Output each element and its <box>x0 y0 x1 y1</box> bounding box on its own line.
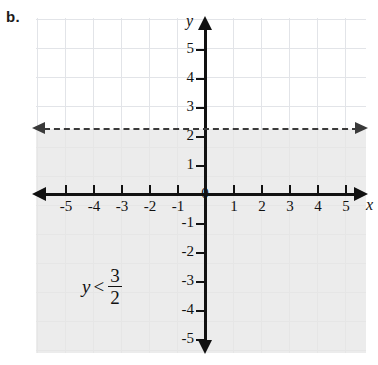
y-tick-label: 5 <box>168 40 194 57</box>
x-axis-label: x <box>366 196 373 214</box>
x-tick-mark <box>65 185 67 194</box>
x-tick-mark <box>121 185 123 194</box>
y-tick-mark <box>196 281 205 283</box>
coordinate-plane: -5 -4 -3 -2 -1 0 1 2 3 4 5 5 4 3 2 1 -1 … <box>36 18 366 353</box>
x-tick-mark <box>233 185 235 194</box>
x-tick-label: -5 <box>53 198 79 215</box>
y-tick-mark <box>196 136 205 138</box>
x-tick-label: 4 <box>305 198 331 215</box>
y-tick-label: -3 <box>168 272 194 289</box>
solution-region-shading <box>36 129 366 353</box>
fraction-numerator: 3 <box>108 266 122 285</box>
x-tick-mark <box>261 185 263 194</box>
figure-canvas: b. -5 -4 -3 -2 -1 0 1 2 3 4 5 <box>0 0 378 365</box>
shaded-region-grid-lines <box>36 129 366 353</box>
y-tick-mark <box>196 165 205 167</box>
x-tick-mark <box>177 185 179 194</box>
y-tick-mark <box>196 107 205 109</box>
fraction-denominator: 2 <box>108 288 122 307</box>
y-tick-label: -4 <box>168 301 194 318</box>
inequality-fraction: 3 2 <box>108 266 122 308</box>
y-tick-mark <box>196 252 205 254</box>
y-tick-label: 3 <box>168 98 194 115</box>
y-axis-label: y <box>186 12 193 30</box>
x-tick-mark <box>317 185 319 194</box>
x-tick-mark <box>149 185 151 194</box>
y-tick-label: 4 <box>168 69 194 86</box>
x-tick-label: -1 <box>165 198 191 215</box>
x-axis-left-arrow-icon <box>32 187 46 201</box>
boundary-right-arrow-icon <box>355 122 368 134</box>
inequality-variable: y <box>82 276 90 298</box>
y-tick-label: -2 <box>168 243 194 260</box>
y-tick-mark <box>196 78 205 80</box>
x-tick-label: 2 <box>249 198 275 215</box>
y-tick-mark <box>196 339 205 341</box>
y-tick-mark <box>196 310 205 312</box>
x-tick-mark <box>289 185 291 194</box>
x-tick-mark <box>345 185 347 194</box>
y-axis-up-arrow-icon <box>198 16 212 30</box>
y-tick-mark <box>196 49 205 51</box>
part-label: b. <box>6 8 20 25</box>
x-tick-label: 1 <box>221 198 247 215</box>
x-tick-label: -3 <box>109 198 135 215</box>
origin-label: 0 <box>192 185 218 202</box>
inequality-annotation: y < 3 2 <box>82 266 122 308</box>
y-tick-label: -5 <box>168 330 194 347</box>
y-axis-down-arrow-icon <box>198 340 212 354</box>
boundary-line-dashed <box>44 128 358 130</box>
y-tick-label: 1 <box>168 156 194 173</box>
inequality-relation: < <box>93 276 104 298</box>
x-tick-label: 3 <box>277 198 303 215</box>
y-tick-label: -1 <box>168 214 194 231</box>
x-tick-label: -4 <box>81 198 107 215</box>
boundary-left-arrow-icon <box>32 122 45 134</box>
x-tick-label: 5 <box>333 198 359 215</box>
x-tick-mark <box>93 185 95 194</box>
y-tick-mark <box>196 223 205 225</box>
x-tick-label: -2 <box>137 198 163 215</box>
